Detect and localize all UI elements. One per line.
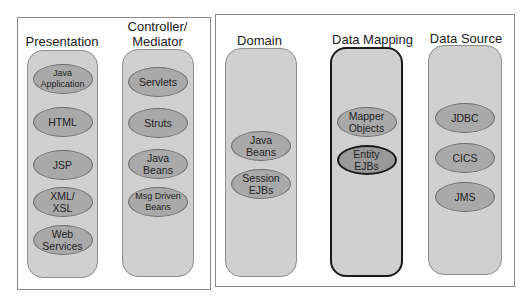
column-data-source: JDBC CICS JMS [428, 45, 502, 275]
node-msg-driven-beans: Msg Driven Beans [128, 187, 188, 217]
column-title-domain: Domain [222, 33, 297, 48]
node-struts: Struts [128, 108, 188, 138]
column-title-data-mapping: Data Mapping [325, 32, 420, 47]
node-jdbc: JDBC [435, 103, 495, 133]
node-servlets: Servlets [128, 67, 188, 97]
column-controller-mediator: Servlets Struts Java Beans Msg Driven Be… [122, 49, 194, 277]
node-domain-java-beans: Java Beans [231, 131, 291, 161]
node-java-beans: Java Beans [128, 149, 188, 179]
column-title-controller-mediator: Controller/ Mediator [115, 19, 200, 49]
column-presentation: Java Application HTML JSP XML/ XSL Web S… [27, 50, 98, 278]
column-data-mapping: Mapper Objects Entity EJBs [330, 47, 403, 277]
node-html: HTML [33, 107, 93, 137]
node-web-services: Web Services [33, 225, 93, 255]
node-mapper-objects: Mapper Objects [337, 107, 397, 137]
node-xml-xsl: XML/ XSL [33, 187, 93, 217]
node-jsp: JSP [33, 150, 93, 180]
node-java-application: Java Application [33, 64, 93, 94]
node-entity-ejbs: Entity EJBs [337, 145, 397, 175]
node-session-ejbs: Session EJBs [231, 169, 291, 199]
node-cics: CICS [435, 143, 495, 173]
column-title-data-source: Data Source [422, 31, 510, 46]
column-domain: Java Beans Session EJBs [225, 48, 297, 277]
column-title-presentation: Presentation [20, 34, 104, 49]
node-jms: JMS [435, 182, 495, 212]
